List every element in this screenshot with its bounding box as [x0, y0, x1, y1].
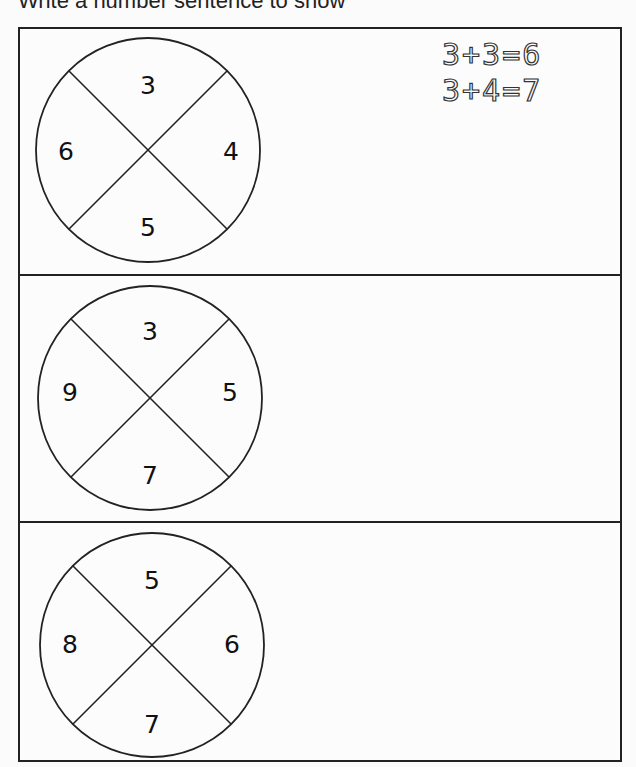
number-wheel-3: 5 6 7 8	[38, 531, 266, 761]
number-wheel-1: 3 4 5 6	[34, 36, 262, 266]
problem-panel-1: 3 4 5 6 3+3=6 3+4=7	[20, 29, 620, 276]
instruction-text: Write a number sentence to show	[18, 0, 345, 14]
number-wheel-2: 3 5 7 9	[36, 284, 264, 514]
wheel-left-number: 6	[58, 137, 74, 166]
wheel-right-number: 6	[224, 630, 240, 659]
wheel-bottom-number: 5	[140, 213, 156, 242]
wheel-bottom-number: 7	[144, 710, 160, 739]
problem-panel-2: 3 5 7 9	[20, 274, 620, 522]
wheel-left-number: 8	[62, 630, 78, 659]
wheel-top-number: 3	[140, 71, 156, 100]
number-sentence-1: 3+3=6	[442, 37, 542, 72]
worksheet-box: 3 4 5 6 3+3=6 3+4=7 3 5 7 9 5 6 7	[18, 27, 622, 762]
wheel-left-number: 9	[62, 378, 78, 407]
wheel-top-number: 3	[142, 317, 158, 346]
problem-panel-3: 5 6 7 8	[20, 521, 620, 760]
wheel-top-number: 5	[144, 566, 160, 595]
number-sentence-2: 3+4=7	[442, 73, 542, 108]
wheel-right-number: 5	[222, 378, 238, 407]
wheel-right-number: 4	[223, 137, 239, 166]
wheel-bottom-number: 7	[142, 461, 158, 490]
